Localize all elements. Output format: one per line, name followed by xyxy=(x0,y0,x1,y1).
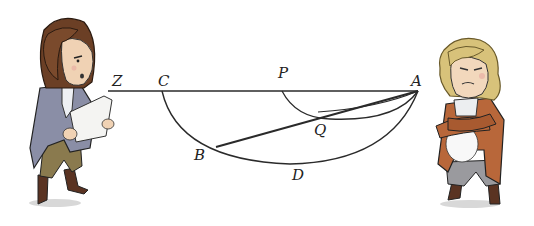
label-z: Z xyxy=(111,72,123,90)
label-b: B xyxy=(193,146,205,164)
label-a: A xyxy=(409,72,422,90)
left-character xyxy=(29,18,114,207)
right-character xyxy=(436,38,504,208)
small-arc-pqa xyxy=(282,91,418,119)
illustration: Z C P A Q B D xyxy=(0,0,534,226)
diagram-labels: Z C P A Q B D xyxy=(111,64,422,184)
label-q: Q xyxy=(314,121,326,139)
geometry-diagram xyxy=(108,91,418,164)
label-c: C xyxy=(158,72,170,90)
label-p: P xyxy=(277,64,289,82)
label-d: D xyxy=(291,166,304,184)
